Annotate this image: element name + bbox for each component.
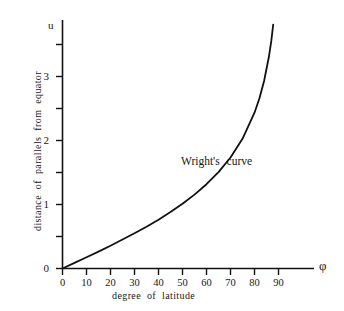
y-tick-label-0: 0 <box>33 263 49 274</box>
x-tick-label-90: 90 <box>266 278 292 289</box>
y-axis-title: distance of parallels from equator <box>33 51 43 251</box>
curve-annotation-label: Wright's curve <box>181 156 252 168</box>
x-axis-title: degree of latitude <box>112 291 195 301</box>
x-tick-label-60: 60 <box>194 278 220 289</box>
x-tick-label-20: 20 <box>98 278 124 289</box>
x-axis-symbol: φ <box>319 259 327 272</box>
chart-figure: u φ 3 2 1 0 0 10 20 30 40 50 60 70 80 90… <box>0 0 344 311</box>
chart-canvas <box>0 0 344 311</box>
x-tick-label-70: 70 <box>218 278 244 289</box>
x-axis-ticks <box>63 269 279 276</box>
y-axis-symbol: u <box>48 20 54 31</box>
x-tick-label-40: 40 <box>146 278 172 289</box>
x-tick-label-50: 50 <box>170 278 196 289</box>
x-tick-label-10: 10 <box>74 278 100 289</box>
x-tick-label-30: 30 <box>122 278 148 289</box>
x-tick-label-0: 0 <box>50 278 76 289</box>
wrights-curve-path <box>63 25 274 269</box>
x-tick-label-80: 80 <box>242 278 268 289</box>
